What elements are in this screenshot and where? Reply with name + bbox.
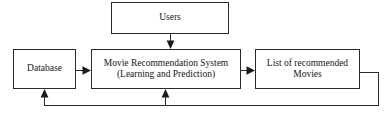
arrow-head-up-to-database xyxy=(41,89,49,98)
node-output[interactable]: List of recommended Movies xyxy=(255,49,360,89)
edge-system-to-output xyxy=(241,66,255,74)
arrow-head-down-to-system xyxy=(167,41,175,50)
node-database[interactable]: Database xyxy=(13,49,76,89)
node-users[interactable]: Users xyxy=(111,2,229,34)
arrow-head-right-to-system xyxy=(83,66,92,74)
diagram-canvas: Users Database Movie Recommendation Syst… xyxy=(0,0,386,118)
node-users-label: Users xyxy=(156,12,184,23)
edge-database-to-system xyxy=(76,66,91,74)
node-output-label: List of recommended xyxy=(264,58,351,69)
arrow-head-up-to-system xyxy=(162,89,170,98)
node-system[interactable]: Movie Recommendation System (Learning an… xyxy=(91,49,241,89)
node-database-label: Database xyxy=(24,63,65,74)
node-system-sublabel: (Learning and Prediction) xyxy=(101,69,232,80)
node-output-sublabel: Movies xyxy=(264,69,351,80)
node-output-text: List of recommended Movies xyxy=(264,58,351,80)
node-system-text: Movie Recommendation System (Learning an… xyxy=(101,58,232,80)
edge-users-to-system xyxy=(167,34,175,49)
node-system-label: Movie Recommendation System xyxy=(101,58,232,69)
arrow-head-right-to-output xyxy=(247,66,256,74)
